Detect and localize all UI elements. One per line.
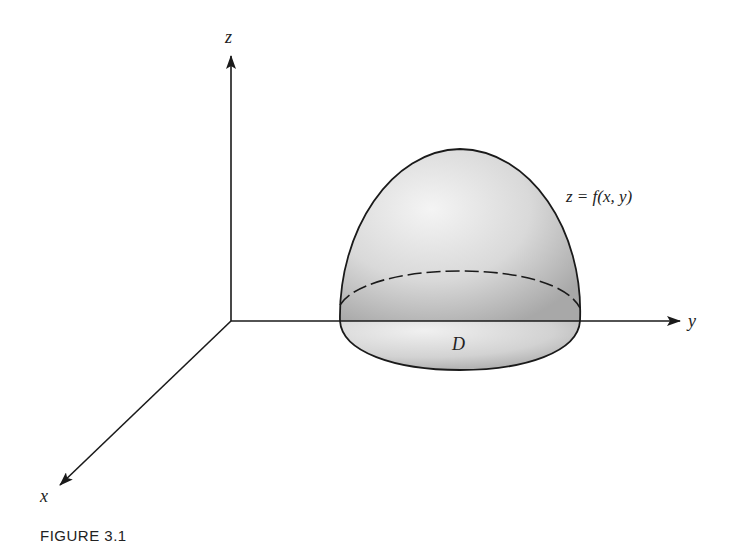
surface-dome [340,149,580,321]
figure-caption: FIGURE 3.1 [40,527,127,544]
figure-diagram: z y x z = f(x, y) D [0,0,732,548]
z-axis-label: z [224,27,232,47]
x-axis [60,321,231,485]
region-d-label: D [451,334,465,354]
surface-equation-label: z = f(x, y) [565,187,633,206]
y-axis-label: y [686,311,696,331]
x-axis-label: x [39,486,48,506]
